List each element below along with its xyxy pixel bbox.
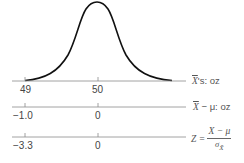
- deviation-tick-label-left: −1.0: [13, 111, 33, 121]
- deviation-axis-suffix: − μ: oz: [199, 101, 231, 112]
- z-denominator: σX̄: [207, 139, 231, 152]
- z-label-prefix: Z =: [191, 134, 207, 144]
- normal-curve: [25, 2, 172, 81]
- z-tick-label-zero: 0: [95, 141, 101, 151]
- xbar-tick-label-49: 49: [20, 85, 31, 95]
- z-numerator: X − μ: [207, 127, 231, 139]
- xbar-axis-suffix: 's: oz: [198, 75, 220, 86]
- xbar-axis-label: X's: oz: [192, 76, 220, 87]
- z-fraction: X − μσX̄: [207, 127, 231, 151]
- deviation-axis-label: X − μ: oz: [193, 102, 230, 113]
- z-tick-label-left: −3.3: [13, 141, 33, 151]
- deviation-tick-label-zero: 0: [95, 111, 101, 121]
- xbar-tick-label-50: 50: [92, 85, 103, 95]
- sigma-subscript: X̄: [219, 143, 223, 151]
- z-axis-label: Z = X − μσX̄: [191, 127, 231, 151]
